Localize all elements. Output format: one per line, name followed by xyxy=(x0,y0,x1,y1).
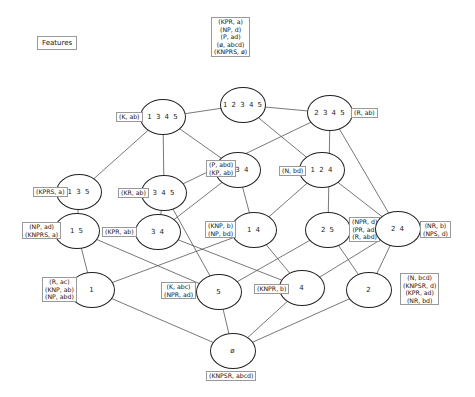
attribute-label-345: (KR, ab) xyxy=(118,188,149,198)
concept-node-2[interactable]: 2 xyxy=(346,272,392,308)
attribute-label-15: (NP, ad)(KNPRS, a) xyxy=(22,222,61,239)
attribute-label-2345: (R, ab) xyxy=(351,108,378,118)
concept-node-1345[interactable]: 1 3 4 5 xyxy=(140,99,186,135)
attribute-label-4: (KNPR, b) xyxy=(254,284,289,294)
attribute-label-1345: (K, ab) xyxy=(116,112,143,122)
concept-node-34[interactable]: 3 4 xyxy=(135,214,181,250)
concept-node-14[interactable]: 1 4 xyxy=(231,212,277,248)
attribute-label-24: (NR, b)(NPS, d) xyxy=(420,221,451,238)
attribute-label-34: (KPR, ab) xyxy=(102,227,137,237)
concept-node-5[interactable]: 5 xyxy=(196,274,242,310)
features-title: Features xyxy=(37,36,77,50)
concept-node-12345[interactable]: 1 2 3 4 5 xyxy=(220,87,266,123)
attribute-label-135: (KPRS, a) xyxy=(33,187,68,197)
attribute-label-5: (K, abc)(NPR, ad) xyxy=(161,282,196,299)
concept-node-empty[interactable]: ø xyxy=(210,333,256,369)
attribute-label-empty: (KNPSR, abcd) xyxy=(206,371,256,381)
attribute-label-124: (N, bd) xyxy=(279,166,306,176)
concept-node-24[interactable]: 2 4 xyxy=(375,211,421,247)
attribute-label-134: (P, abd)(KP, ab) xyxy=(206,160,236,177)
attribute-label-1: (R, ac)(KNP, ab)(NP, abd) xyxy=(42,277,77,302)
attribute-label-12345: (KPR, a)(NP, d)(P, ad)(ø, abcd)(KNPRS, ø… xyxy=(211,17,250,57)
attribute-label-2: (N, bcd)(KNPSR, d)(KPR, ad)(NR, bd) xyxy=(400,273,439,305)
concept-node-2345[interactable]: 2 3 4 5 xyxy=(307,95,353,131)
concept-node-25[interactable]: 2 5 xyxy=(305,212,351,248)
attribute-label-14: (KNP, b)(NP, bd) xyxy=(205,221,236,238)
